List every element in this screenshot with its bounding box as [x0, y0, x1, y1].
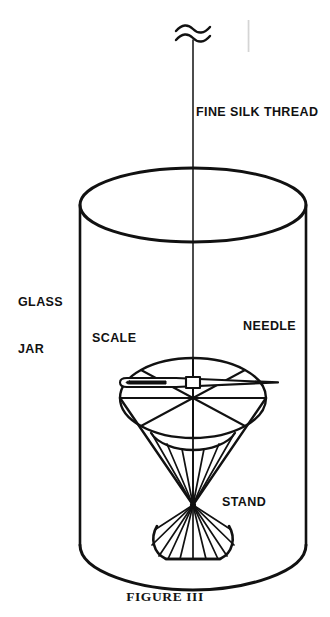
fine-silk-thread	[176, 25, 210, 400]
needle-eye	[126, 381, 166, 384]
stand-base-rib-2	[152, 505, 193, 545]
label-glass-jar-line2: JAR	[18, 342, 63, 358]
figure-diagram: FINE SILK THREAD GLASS JAR SCALE NEEDLE …	[0, 0, 330, 617]
label-glass-jar: GLASS JAR	[18, 264, 63, 389]
needle-mount	[186, 377, 200, 388]
label-glass-jar-line1: GLASS	[18, 295, 63, 311]
stand	[120, 398, 266, 559]
figure-caption: FIGURE III	[0, 589, 330, 605]
thread-break-icon-upper	[176, 25, 210, 32]
scale-spoke-sw	[141, 398, 193, 426]
scale-spoke-se	[193, 398, 245, 426]
needle	[120, 377, 278, 388]
label-needle: NEEDLE	[243, 319, 296, 335]
label-stand: STAND	[222, 495, 266, 511]
stand-base-rib-3	[159, 505, 193, 556]
stand-base-rib-10	[193, 505, 234, 545]
stand-base-rib-9	[193, 505, 227, 556]
label-fine-silk-thread: FINE SILK THREAD	[196, 105, 318, 121]
label-scale: SCALE	[92, 331, 136, 347]
